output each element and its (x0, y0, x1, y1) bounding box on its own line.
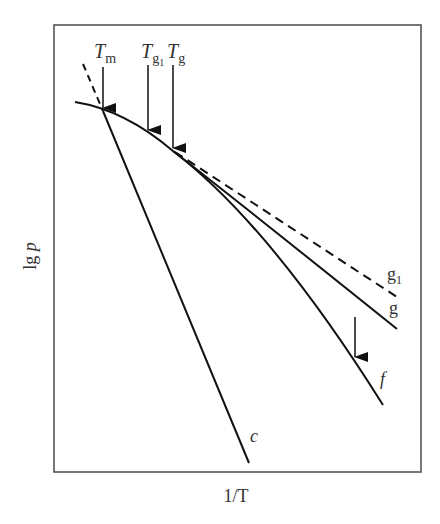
y-axis-label: lg p (20, 242, 40, 270)
label-tm: Tm (94, 40, 116, 66)
curve-f (75, 102, 383, 405)
label-c: c (250, 426, 258, 446)
label-tg1: Tg1 (141, 40, 164, 68)
curve-c (103, 111, 249, 463)
label-g1: g1 (387, 264, 402, 287)
label-f: f (380, 369, 388, 389)
diagram: Tm Tg1 Tg c f g g1 1/T lg p (0, 0, 440, 524)
curve-g1 (175, 152, 397, 297)
curve-g (173, 151, 397, 329)
x-axis-label: 1/T (224, 486, 249, 506)
label-g: g (389, 298, 398, 318)
label-tg: Tg (167, 40, 185, 66)
plot-frame (54, 25, 421, 472)
